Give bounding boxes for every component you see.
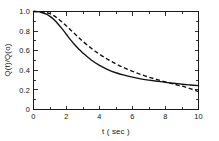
chart-figure-root: 0246810 00.20.40.60.81.0 t ( sec ) Q(t)/…	[0, 0, 219, 141]
y-tick-label: 0	[26, 105, 30, 114]
y-tick-label: 0.2	[19, 86, 30, 95]
y-tick-label: 1.0	[19, 7, 30, 16]
chart-svg: 0246810 00.20.40.60.81.0 t ( sec ) Q(t)/…	[0, 0, 219, 141]
x-tick-label: 4	[97, 112, 101, 121]
x-tick-label: 2	[64, 112, 68, 121]
x-tick-label: 10	[194, 112, 203, 121]
y-tick-label: 0.8	[19, 27, 30, 36]
x-axis-title: t ( sec )	[102, 127, 130, 136]
y-tick-label: 0.4	[19, 66, 30, 75]
x-tick-label: 0	[31, 112, 35, 121]
y-axis-title: Q(t)/Q(o)	[3, 43, 12, 76]
x-tick-label: 8	[163, 112, 167, 121]
x-tick-label: 6	[130, 112, 134, 121]
y-tick-label: 0.6	[19, 46, 30, 55]
